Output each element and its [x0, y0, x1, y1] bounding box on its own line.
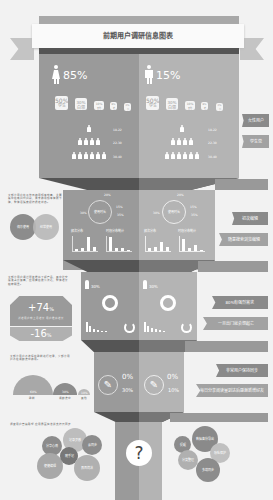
habit-value: 10% — [168, 387, 179, 393]
chart-title: 频次分布 — [144, 229, 156, 233]
feature-bubble: 多端同步 — [196, 458, 220, 482]
donut-label: 35% — [191, 213, 198, 217]
chart-title: 时段分布统计 — [106, 229, 124, 233]
age-label: 22-30 — [208, 141, 217, 145]
arc-label: 通勤途中 — [59, 397, 71, 400]
gauge-chart — [124, 322, 135, 333]
arc-label: 睡前 — [29, 397, 35, 400]
female-percent: 30% — [149, 285, 158, 289]
usage-donut: 使用时长 — [162, 200, 186, 224]
ribbon-tag: 女性用户 — [242, 114, 269, 127]
age-label: 18-22 — [208, 128, 217, 132]
venn-circle: 经常使用 — [33, 214, 59, 240]
bar-chart — [179, 236, 205, 252]
growth-badge: +74% 新增用户 较上月增长 用户推荐增长 — [10, 296, 72, 326]
decline-value: -16 — [30, 328, 46, 339]
male-panel — [139, 54, 239, 178]
female-icon — [85, 280, 89, 289]
ribbon-tag: 80%有强烈需求 — [212, 296, 268, 309]
donut-label: 15% — [116, 205, 123, 209]
male-percent: 15% — [156, 70, 180, 82]
section-description: 调查用户普遍希望 应用界面简洁并支持云同步 — [10, 423, 100, 426]
arc-value: 60% — [30, 390, 37, 394]
chart-title: 频次分布 — [71, 229, 83, 233]
usage-donut: 使用时长 — [88, 200, 112, 224]
unit: % — [47, 332, 52, 338]
age-label: 22-30 — [113, 141, 122, 145]
section-description: 大部分用户会选择在睡前进行记录，少部分用户会在通勤途中使用。 — [10, 355, 70, 362]
occupation-card: 2%小 — [216, 103, 223, 111]
occupation-card: 50%学生 — [146, 96, 159, 110]
bar-chart — [72, 236, 98, 252]
ribbon-tag: 一旦出门就会想起它 — [203, 317, 268, 330]
female-icon — [143, 280, 147, 289]
band — [185, 341, 268, 352]
pencil-icon: ✎ — [144, 375, 164, 395]
band — [215, 179, 268, 190]
unit: % — [49, 306, 54, 312]
habit-value: 0% — [122, 373, 133, 381]
occupation-card: 8%老 — [201, 102, 208, 110]
feature-bubble: 界面简洁 — [74, 455, 100, 481]
band — [170, 413, 268, 422]
ribbon-tag: 随意搜索浏览编辑 — [219, 233, 268, 246]
title-ribbon-tail-left — [10, 38, 34, 60]
arc-value: 10% — [81, 391, 88, 395]
age-label: 30-40 — [113, 155, 122, 159]
donut-label: 20% — [177, 193, 184, 197]
growth-sub: 新增用户 较上月增长 用户推荐增长 — [10, 316, 72, 320]
growth-value: +74 — [28, 302, 49, 313]
section-description: 大部分用户通过朋友推荐了解产品，其中社交渠道占比最高，应用商店搜索次之，整体增长… — [8, 276, 68, 286]
bar-chart — [86, 320, 114, 332]
donut-label: 15% — [190, 205, 197, 209]
arc-label: 其他 — [81, 397, 87, 400]
donut-label: 30% — [80, 211, 87, 215]
feature-bubble: 云同步 — [82, 435, 102, 455]
female-percent: 85% — [63, 70, 87, 82]
ribbon-tag: 学生党 — [242, 135, 269, 148]
page-title: 前期用户调研信息图表 — [32, 24, 244, 48]
female-icon — [52, 65, 60, 85]
occupation-card: 50%学生 — [55, 96, 68, 110]
donut-label: 30% — [153, 211, 160, 215]
age-label: 18-22 — [113, 128, 122, 132]
occupation-card: 8%老 — [110, 102, 117, 110]
occupation-card: 10%其他 — [185, 101, 195, 110]
donut-label: 20% — [104, 193, 111, 197]
bar-chart — [106, 236, 132, 252]
ring-chart — [160, 295, 176, 311]
chart-title: 时段分布统计 — [178, 229, 196, 233]
section-description: 大部分用户在工作日使用频率较高，主要集中在晚间时间段，周末使用频率有所下降，整体… — [8, 194, 62, 204]
ribbon-tag: 每日分享阅读量到达后感谢新增好友 — [196, 384, 268, 397]
gauge-chart — [181, 322, 192, 333]
occupation-card: 2%小 — [124, 103, 131, 111]
feature-bubble: 分类整理 — [178, 450, 198, 470]
decline-badge: -16% — [10, 327, 72, 341]
occupation-card: 30%白领 — [75, 98, 87, 110]
band — [198, 261, 268, 272]
habit-value: 30% — [122, 387, 133, 393]
ribbon-tag: 初次编辑 — [232, 212, 268, 225]
bar-chart — [145, 236, 171, 252]
habit-value: 0% — [167, 373, 178, 381]
age-label: 30-40 — [208, 155, 217, 159]
question-icon: ? — [126, 440, 152, 466]
bar-chart — [144, 320, 172, 332]
female-percent: 30% — [91, 285, 100, 289]
arc-value: 30% — [62, 390, 69, 394]
male-icon — [145, 65, 153, 85]
occupation-card: 10%其他 — [94, 101, 104, 110]
ring-chart — [102, 295, 118, 311]
title-top-band — [39, 16, 239, 24]
donut-label: 35% — [117, 213, 124, 217]
occupation-card: 30%白领 — [166, 98, 178, 110]
ribbon-tag: 非常用户保持同步 — [216, 364, 268, 377]
pencil-icon: ✎ — [98, 375, 118, 395]
